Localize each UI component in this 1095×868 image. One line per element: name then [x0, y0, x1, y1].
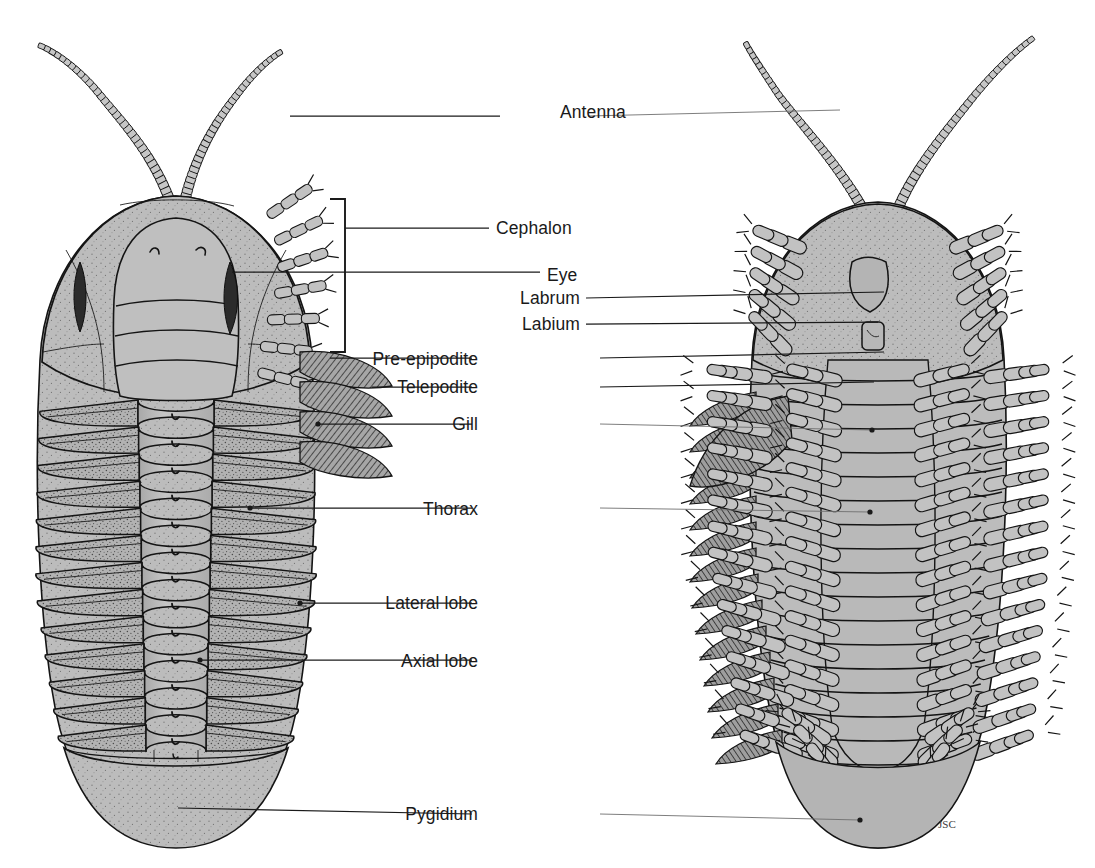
label-labium: Labium: [522, 314, 580, 334]
label-lateral-lobe: Lateral lobe: [385, 593, 478, 613]
label-texts: AntennaCephalonEyeLabrumLabiumPre-epipod…: [373, 102, 626, 824]
dorsal-antenna-right: [180, 49, 284, 200]
label-thorax: Thorax: [423, 499, 478, 519]
ventral-telopodite: [736, 214, 809, 259]
ventral-antenna-left: [743, 40, 866, 209]
label-telepodite: Telepodite: [397, 377, 478, 397]
leader-dot-gill: [315, 421, 320, 426]
dorsal-gill-fans: [300, 351, 392, 478]
trilobite-diagram: JSC AntennaCephalonEyeLabrumLabiumPre-ep…: [0, 0, 1095, 868]
ventral-axial-region: [821, 360, 935, 771]
leader-dot-r-gill: [869, 427, 874, 432]
label-cephalon: Cephalon: [496, 218, 572, 238]
dorsal-view-specimen: [36, 43, 392, 848]
label-pygidium: Pygidium: [405, 804, 478, 824]
leader-dot-r-thorax: [867, 509, 872, 514]
leader-dot-axial-lobe: [197, 657, 202, 662]
label-eye: Eye: [547, 265, 577, 285]
artist-signature: JSC: [938, 818, 956, 830]
dorsal-limb-tip: [275, 241, 339, 277]
label-axial-lobe: Axial lobe: [401, 651, 478, 671]
dorsal-limb-tip: [263, 174, 324, 223]
leader-dot-lateral-lobe: [297, 600, 302, 605]
leader-dot-thorax: [247, 505, 252, 510]
ventral-telopodite: [946, 214, 1019, 259]
leader-dot-r-pygidium: [857, 817, 862, 822]
label-antenna: Antenna: [560, 102, 626, 122]
label-pre-epipodite: Pre-epipodite: [373, 349, 478, 369]
figure-canvas: JSC AntennaCephalonEyeLabrumLabiumPre-ep…: [0, 0, 1095, 868]
ventral-view-specimen: JSC: [680, 36, 1075, 848]
label-gill: Gill: [452, 414, 478, 434]
dorsal-antenna-left: [36, 43, 174, 201]
ventral-antenna-right: [894, 36, 1036, 210]
label-labrum: Labrum: [520, 288, 580, 308]
dorsal-glabella: [113, 218, 238, 401]
